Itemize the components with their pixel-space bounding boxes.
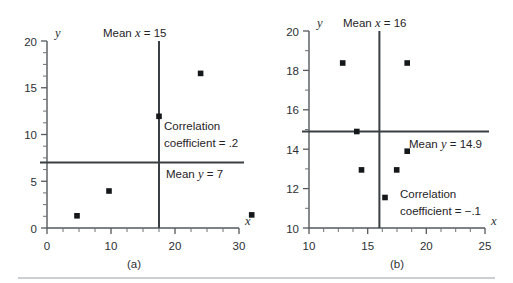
panel-a-mean-y-label: Mean y = 7 — [166, 167, 223, 181]
panel-a-correlation-line-2: coefficient = .2 — [164, 137, 238, 149]
panel-a-ytick-label: 10 — [24, 129, 37, 141]
panel-a: 20 15 10 5 0 0 10 20 30 y x Mean x = 15 — [24, 26, 254, 270]
panel-b-correlation-line-1: Correlation — [400, 188, 456, 200]
panel-a-data-point — [156, 114, 162, 120]
panel-a-xtick-label: 20 — [169, 240, 182, 252]
figure-container: 20 15 10 5 0 0 10 20 30 y x Mean x = 15 — [0, 0, 513, 283]
panel-b-xtick-label: 25 — [479, 240, 492, 252]
panel-b-ytick-label: 14 — [286, 144, 299, 156]
panel-a-y-axis-name: y — [53, 26, 61, 40]
panel-b: 20 18 16 14 12 10 10 15 20 25 y x — [286, 16, 497, 270]
panel-a-ytick-label: 0 — [31, 223, 37, 235]
panel-a-axes — [47, 41, 239, 228]
panel-a-mean-x-label: Mean x = 15 — [103, 26, 166, 40]
panel-a-ytick-label: 5 — [31, 176, 37, 188]
panel-b-data-point — [359, 167, 365, 173]
panel-b-data-point — [394, 167, 400, 173]
panel-b-ytick-label: 16 — [286, 104, 299, 116]
panel-a-y-major-ticks — [41, 41, 47, 228]
panel-b-data-point — [340, 60, 346, 66]
panel-b-ytick-label: 18 — [286, 65, 299, 77]
scatter-figure-svg: 20 15 10 5 0 0 10 20 30 y x Mean x = 15 — [0, 0, 513, 283]
panel-b-data-point — [354, 129, 360, 135]
panel-a-data-point — [198, 71, 204, 77]
panel-a-xtick-label: 30 — [233, 240, 246, 252]
panel-b-axes — [309, 31, 485, 228]
panel-a-ytick-label: 15 — [24, 82, 37, 94]
panel-b-xtick-label: 20 — [420, 240, 433, 252]
panel-a-data-point — [74, 213, 80, 219]
panel-b-caption: (b) — [390, 258, 404, 270]
panel-b-data-point — [404, 60, 410, 66]
panel-b-mean-x-label: Mean x = 16 — [343, 16, 406, 30]
panel-a-xtick-label: 10 — [105, 240, 118, 252]
panel-b-y-axis-name: y — [315, 16, 323, 30]
panel-a-correlation-line-1: Correlation — [164, 120, 220, 132]
panel-a-data-point — [249, 212, 255, 218]
panel-a-ytick-label: 20 — [24, 36, 37, 48]
panel-b-xtick-label: 10 — [303, 240, 316, 252]
panel-b-ytick-label: 12 — [286, 183, 299, 195]
panel-a-xtick-label: 0 — [44, 240, 50, 252]
panel-b-xtick-label: 15 — [361, 240, 374, 252]
panel-a-caption: (a) — [127, 258, 141, 270]
panel-b-ytick-label: 20 — [286, 26, 299, 38]
panel-b-data-point — [382, 195, 388, 201]
panel-b-mean-y-label: Mean y = 14.9 — [409, 137, 482, 151]
panel-b-x-axis-name: x — [490, 214, 497, 228]
panel-b-correlation-line-2: coefficient = −.1 — [400, 205, 481, 217]
panel-a-data-point — [106, 188, 112, 194]
panel-b-ytick-label: 10 — [286, 223, 299, 235]
